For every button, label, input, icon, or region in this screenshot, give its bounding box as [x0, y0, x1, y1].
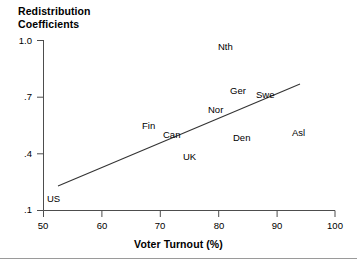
data-point-label-asl: Asl	[292, 128, 305, 138]
data-point-label-can: Can	[163, 130, 180, 140]
x-tick-label-4: 80	[204, 221, 234, 231]
y-tick-label-4: .1	[6, 205, 32, 215]
y-tick-label-3: .4	[6, 149, 32, 159]
y-tick-label-1: 1.0	[6, 36, 32, 46]
chart-title: Redistribution Coefficients	[18, 5, 91, 30]
x-tick-label-6: 100	[320, 221, 350, 231]
x-axis-title: Voter Turnout (%)	[0, 238, 357, 250]
x-tick-label-3: 70	[145, 221, 175, 231]
data-point-label-den: Den	[233, 133, 250, 143]
data-point-label-fin: Fin	[142, 121, 155, 131]
bottom-divider	[0, 258, 357, 259]
x-tick-label-2: 60	[87, 221, 117, 231]
x-tick-label-1: 50	[28, 221, 58, 231]
data-point-label-uk: UK	[183, 152, 196, 162]
data-point-label-ger: Ger	[230, 86, 246, 96]
y-tick-label-2: .7	[6, 92, 32, 102]
data-point-label-us: US	[47, 194, 60, 204]
data-point-label-nor: Nor	[208, 105, 223, 115]
chart-figure: Redistribution Coefficients 1.0 .7 .4 .1…	[0, 0, 357, 265]
data-point-label-swe: Swe	[256, 90, 274, 100]
x-tick-label-5: 90	[262, 221, 292, 231]
data-point-label-nth: Nth	[218, 42, 233, 52]
